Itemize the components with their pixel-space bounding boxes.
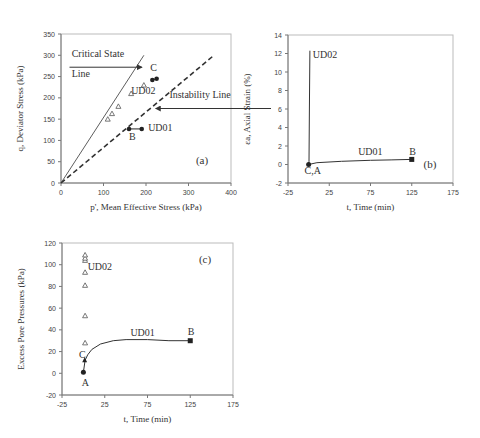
x-tick-label: 400 <box>225 189 237 196</box>
x-tick-label: -25 <box>283 189 293 196</box>
y-tick-label: 60 <box>48 305 56 312</box>
x-tick-label: 300 <box>183 189 195 196</box>
series-ud01 <box>309 159 412 164</box>
x-tick-label: 125 <box>406 189 418 196</box>
y-tick-label: 350 <box>43 31 55 38</box>
annotation-b: B <box>409 146 416 157</box>
annotation-c: C <box>79 349 86 360</box>
y-tick-label: 8 <box>278 87 282 94</box>
annotation-a: A <box>82 377 90 388</box>
x-axis-label: p', Mean Effective Stress (kPa) <box>90 202 202 212</box>
annotation-instability-line: Instability Line <box>169 89 231 100</box>
x-axis-label: t, Time (min) <box>124 414 172 424</box>
y-tick-label: 2 <box>278 143 282 150</box>
annotation-b: B <box>188 326 195 337</box>
annotation-ud01: UD01 <box>130 327 154 338</box>
chart-panel-c: -252575125175-20020406080100120t, Time (… <box>16 240 239 425</box>
panel-label: (a) <box>196 154 209 167</box>
x-tick-label: 75 <box>367 189 375 196</box>
y-tick-label: 4 <box>278 124 282 131</box>
x-tick-label: 200 <box>140 189 152 196</box>
annotation-ud01: UD01 <box>358 146 382 157</box>
y-tick-label: 12 <box>274 50 282 57</box>
x-tick-label: 100 <box>98 189 110 196</box>
annotation-c: C <box>150 62 157 73</box>
y-tick-label: -2 <box>276 180 282 187</box>
x-tick-label: 25 <box>101 401 109 408</box>
x-tick-label: -25 <box>57 401 67 408</box>
y-tick-label: 50 <box>47 158 55 165</box>
y-tick-label: 200 <box>43 94 55 101</box>
triangle-marker <box>83 283 88 288</box>
y-tick-label: 6 <box>278 106 282 113</box>
x-tick-label: 175 <box>447 189 459 196</box>
y-tick-label: 250 <box>43 73 55 80</box>
triangle-marker <box>83 252 88 257</box>
y-tick-label: 80 <box>48 283 56 290</box>
y-axis-label: q, Deviator Stress (kPa) <box>15 66 25 152</box>
triangle-marker <box>105 117 110 122</box>
y-tick-label: 150 <box>43 116 55 123</box>
annotation-ud01: UD01 <box>148 122 172 133</box>
y-tick-label: 120 <box>44 240 56 247</box>
annotation-b: B <box>129 131 136 142</box>
triangle-marker <box>110 111 115 116</box>
y-tick-label: 10 <box>274 69 282 76</box>
y-axis-label: Excess Pore Pressures (kPa) <box>16 268 26 370</box>
square-marker <box>409 157 414 162</box>
series-ud01 <box>83 340 190 373</box>
x-axis-label: t, Time (min) <box>347 202 395 212</box>
triangle-marker <box>83 340 88 345</box>
x-tick-label: 25 <box>325 189 333 196</box>
x-tick-label: 75 <box>144 401 152 408</box>
y-tick-label: -20 <box>46 392 56 399</box>
circle-marker <box>81 370 86 375</box>
y-tick-label: 100 <box>44 261 56 268</box>
y-tick-label: 0 <box>51 180 55 187</box>
y-tick-label: 20 <box>48 348 56 355</box>
y-tick-label: 300 <box>43 52 55 59</box>
x-tick-label: 125 <box>184 401 196 408</box>
triangle-marker <box>83 313 88 318</box>
annotation-c-a: C,A <box>305 165 322 176</box>
y-axis-label: εa, Axial Strain (%) <box>242 73 252 144</box>
annotation-line: Line <box>72 68 91 79</box>
y-tick-label: 100 <box>43 137 55 144</box>
y-tick-label: 14 <box>274 32 282 39</box>
annotation-ud02: UD02 <box>131 85 155 96</box>
figure-canvas: 0100200300400050100150200250300350p', Me… <box>0 0 480 438</box>
y-tick-label: 0 <box>278 161 282 168</box>
annotation-ud02: UD02 <box>313 49 337 60</box>
y-tick-label: 0 <box>52 370 56 377</box>
y-tick-label: 40 <box>48 326 56 333</box>
triangle-marker <box>116 104 121 109</box>
x-tick-label: 0 <box>59 189 63 196</box>
panel-label: (c) <box>199 253 212 266</box>
series-ud02 <box>309 51 310 165</box>
annotation-ud02: UD02 <box>88 261 112 272</box>
chart-panel-a: 0100200300400050100150200250300350p', Me… <box>15 31 271 213</box>
x-tick-label: 175 <box>227 401 239 408</box>
chart-panel-b: -252575125175-202468101214t, Time (min)ε… <box>242 32 459 213</box>
annotation-critical-state: Critical State <box>72 48 125 59</box>
panel-label: (b) <box>424 158 437 171</box>
square-marker <box>188 338 193 343</box>
